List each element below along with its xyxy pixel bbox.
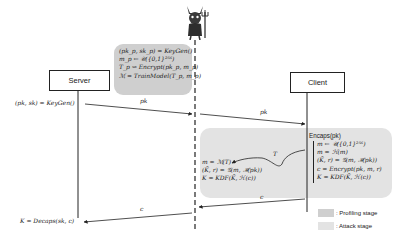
server-keygen: (pk, sk) = KeyGen() (15, 99, 75, 107)
attack-step: m = ℳ(T) (202, 158, 262, 166)
attack-step: K = KDF(K̄, ℋ(c)) (202, 174, 262, 182)
client-step: (K̄, r) = 𝒢(m, ℋ(pk)) (317, 156, 382, 164)
trace-label: T (273, 150, 277, 158)
client-box: Client (290, 72, 345, 93)
pk-label-1: pk (140, 97, 147, 105)
c-label-1: c (260, 193, 263, 201)
legend-label: : Attack stage (336, 222, 372, 230)
legend-item-attack: : Attack stage (318, 222, 377, 230)
profiling-step: (pk_p, sk_p) = KeyGen() (119, 47, 201, 55)
profiling-step: T_p ⇝ Encrypt(pk_p, m_p) (119, 63, 201, 71)
client-label: Client (308, 78, 327, 87)
client-step: m ← 𝒰({0,1}²⁵⁶) (317, 140, 382, 148)
devil-icon (181, 4, 209, 40)
legend-label: : Profiling stage (336, 209, 377, 217)
server-box: Server (49, 70, 110, 91)
client-step: K = KDF(K̄, ℋ(c)) (317, 173, 382, 181)
client-step: c = Encrypt(pk, m, r) (317, 165, 382, 173)
encaps-header: Encaps(pk) (309, 132, 341, 140)
profiling-step: m_p ← 𝒰({0,1}²⁵⁶) (119, 55, 201, 63)
legend: : Profiling stage : Attack stage (318, 209, 377, 230)
legend-swatch-profiling (318, 209, 334, 217)
attack-steps: m = ℳ(T) (K̄, r) = 𝒢(m, ℋ(pk)) K = KDF(K… (202, 158, 262, 183)
profiling-step: ℳ = TrainModel(T_p, m_p) (119, 72, 201, 80)
server-label: Server (68, 76, 90, 85)
client-steps: m ← 𝒰({0,1}²⁵⁶) m = ℋ(m) (K̄, r) = 𝒢(m, … (317, 140, 382, 181)
c-label-2: c (140, 205, 143, 213)
profiling-steps: (pk_p, sk_p) = KeyGen() m_p ← 𝒰({0,1}²⁵⁶… (119, 47, 201, 80)
server-decaps: K = Decaps(sk, c) (20, 217, 74, 225)
legend-swatch-attack (318, 222, 334, 230)
client-bracket (313, 141, 314, 183)
pk-label-2: pk (260, 108, 267, 116)
legend-item-profiling: : Profiling stage (318, 209, 377, 217)
